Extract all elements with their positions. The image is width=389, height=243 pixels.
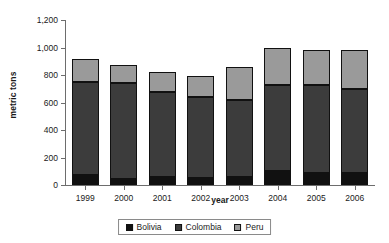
- x-tick-mark: [355, 186, 356, 190]
- legend-item-bolivia[interactable]: Bolivia: [126, 222, 162, 232]
- legend-label: Peru: [245, 222, 263, 232]
- y-tick-label: 0: [53, 180, 58, 190]
- bar-segment-peru: [187, 76, 214, 97]
- bar-segment-peru: [303, 50, 330, 85]
- y-tick-mark: [61, 48, 65, 49]
- bar-segment-peru: [72, 59, 99, 82]
- x-tick-mark: [124, 186, 125, 190]
- y-tick-mark: [61, 158, 65, 159]
- y-tick-label: 1,200: [37, 15, 58, 25]
- legend-label: Colombia: [186, 222, 222, 232]
- bar-stack: [303, 20, 330, 185]
- bar-stack: [110, 20, 137, 185]
- bar-segment-colombia: [72, 82, 99, 176]
- y-tick-label: 800: [44, 70, 58, 80]
- y-tick-mark: [61, 185, 65, 186]
- bar-segment-bolivia: [72, 175, 99, 185]
- y-tick-mark: [61, 75, 65, 76]
- bar-segment-bolivia: [341, 173, 368, 185]
- bar-stack: [72, 20, 99, 185]
- y-tick-label: 200: [44, 153, 58, 163]
- bar-segment-colombia: [149, 92, 176, 177]
- y-tick-label: 600: [44, 98, 58, 108]
- plot-area: 02004006008001,0001,200 1999200020012002…: [66, 20, 374, 185]
- bar-stack: [149, 20, 176, 185]
- y-tick-label: 400: [44, 125, 58, 135]
- bar-segment-bolivia: [303, 173, 330, 185]
- bar-segment-colombia: [226, 100, 253, 176]
- bar-stack: [187, 20, 214, 185]
- x-axis-line: [65, 185, 375, 186]
- bar-segment-colombia: [303, 85, 330, 173]
- x-tick-mark: [162, 186, 163, 190]
- y-axis-title-label: metric tons: [8, 72, 18, 119]
- bar-segment-bolivia: [226, 177, 253, 185]
- x-tick-mark: [316, 186, 317, 190]
- legend-item-colombia[interactable]: Colombia: [175, 222, 222, 232]
- bar-segment-bolivia: [187, 178, 214, 185]
- bar-stack: [341, 20, 368, 185]
- bar-segment-colombia: [341, 89, 368, 173]
- legend-swatch-icon: [234, 224, 241, 231]
- stacked-bar-chart: metric tons 02004006008001,0001,200 1999…: [0, 0, 389, 243]
- bar-stack: [226, 20, 253, 185]
- x-tick-mark: [201, 186, 202, 190]
- y-tick-label: 1,000: [37, 43, 58, 53]
- bar-stack: [264, 20, 291, 185]
- bar-segment-peru: [226, 67, 253, 100]
- y-tick-mark: [61, 20, 65, 21]
- y-tick-mark: [61, 130, 65, 131]
- y-axis-title: metric tons: [2, 0, 24, 190]
- chart-legend: BoliviaColombiaPeru: [118, 219, 272, 235]
- x-tick-mark: [278, 186, 279, 190]
- bar-segment-colombia: [187, 97, 214, 178]
- x-tick-mark: [85, 186, 86, 190]
- legend-item-peru[interactable]: Peru: [234, 222, 263, 232]
- bar-segment-peru: [264, 48, 291, 85]
- legend-label: Bolivia: [137, 222, 162, 232]
- legend-swatch-icon: [126, 224, 133, 231]
- bar-segment-peru: [341, 50, 368, 89]
- x-tick-mark: [239, 186, 240, 190]
- bar-segment-bolivia: [149, 177, 176, 185]
- bar-segment-peru: [149, 72, 176, 93]
- y-tick-mark: [61, 103, 65, 104]
- bar-segment-colombia: [110, 83, 137, 179]
- bar-segment-colombia: [264, 85, 291, 172]
- bar-segment-bolivia: [264, 171, 291, 185]
- bar-segment-bolivia: [110, 179, 137, 185]
- bar-segment-peru: [110, 65, 137, 84]
- y-axis-line: [65, 20, 66, 186]
- legend-swatch-icon: [175, 224, 182, 231]
- x-axis-title: year: [66, 195, 374, 205]
